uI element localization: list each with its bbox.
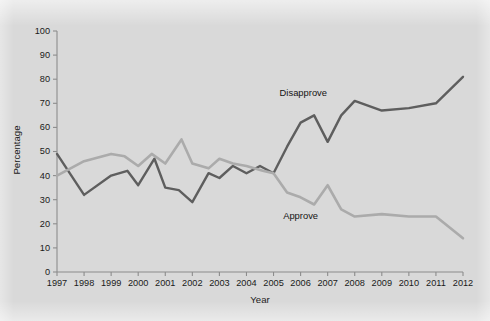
x-tick-label: 2004	[236, 278, 256, 288]
line-chart: 0102030405060708090100 19971998199920002…	[0, 0, 490, 321]
x-tick-label: 2001	[155, 278, 175, 288]
x-tick-label: 2006	[290, 278, 310, 288]
x-tick-label: 2003	[209, 278, 229, 288]
y-axis-title: Percentage	[11, 125, 22, 174]
y-tick-label: 10	[40, 243, 50, 253]
x-tick-label: 2012	[453, 278, 473, 288]
y-tick-label: 90	[40, 50, 50, 60]
series-line-disapprove	[57, 77, 463, 202]
y-axis: 0102030405060708090100	[35, 26, 57, 277]
x-tick-label: 1997	[47, 278, 67, 288]
x-tick-label: 2009	[372, 278, 392, 288]
series-lines	[57, 77, 463, 238]
series-line-approve	[57, 139, 463, 238]
y-tick-label: 40	[40, 171, 50, 181]
y-tick-label: 0	[45, 267, 50, 277]
x-tick-label: 2008	[345, 278, 365, 288]
y-tick-label: 100	[35, 26, 50, 36]
y-tick-label: 70	[40, 98, 50, 108]
x-tick-label: 2002	[182, 278, 202, 288]
x-tick-label: 1999	[101, 278, 121, 288]
x-tick-label: 2007	[317, 278, 337, 288]
y-tick-label: 60	[40, 122, 50, 132]
y-tick-label: 30	[40, 195, 50, 205]
y-tick-label: 80	[40, 74, 50, 84]
series-label-approve: Approve	[283, 210, 318, 221]
x-tick-label: 2000	[128, 278, 148, 288]
x-tick-label: 2005	[263, 278, 283, 288]
x-tick-label: 2010	[399, 278, 419, 288]
series-labels: DisapproveApprove	[280, 87, 327, 221]
x-tick-label: 1998	[74, 278, 94, 288]
y-tick-label: 50	[40, 146, 50, 156]
series-label-disapprove: Disapprove	[280, 87, 327, 98]
chart-container: 0102030405060708090100 19971998199920002…	[0, 0, 490, 321]
x-axis: 1997199819992000200120022003200420052006…	[47, 272, 473, 288]
x-axis-title: Year	[250, 294, 270, 305]
x-tick-label: 2011	[426, 278, 446, 288]
y-tick-label: 20	[40, 219, 50, 229]
